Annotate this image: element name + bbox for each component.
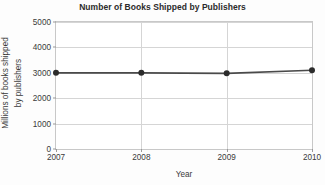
y-axis-tick-label: 0 xyxy=(46,145,51,154)
x-axis-tick-mark xyxy=(56,149,57,152)
x-axis-tick-mark xyxy=(141,149,142,152)
x-axis-tick-label: 2010 xyxy=(303,153,321,162)
plot-area: 010002000300040005000 2007200820092010 xyxy=(55,21,313,150)
chart-container: Number of Books Shipped by Publishers Mi… xyxy=(0,0,325,185)
x-axis-tick-label: 2007 xyxy=(47,153,65,162)
x-axis-tick-label: 2009 xyxy=(218,153,236,162)
y-axis-tick-label: 5000 xyxy=(33,18,51,27)
y-axis-label-line-2: by publishers xyxy=(14,59,23,107)
series-line xyxy=(56,70,312,73)
x-axis-tick-mark xyxy=(227,149,228,152)
x-axis-label: Year xyxy=(55,170,313,179)
data-point-marker xyxy=(138,70,144,76)
y-axis-tick-label: 4000 xyxy=(33,43,51,52)
data-point-marker xyxy=(53,70,59,76)
y-axis-label: Millions of books shipped by publishers xyxy=(0,18,25,148)
x-axis-tick-mark xyxy=(312,149,313,152)
y-axis-tick-label: 3000 xyxy=(33,68,51,77)
y-axis-tick-label: 1000 xyxy=(33,119,51,128)
y-axis-tick-label: 2000 xyxy=(33,94,51,103)
x-axis-tick-label: 2008 xyxy=(132,153,150,162)
y-axis-label-line-1: Millions of books shipped xyxy=(1,37,10,128)
data-point-marker xyxy=(224,70,230,76)
data-series xyxy=(56,22,312,149)
data-point-marker xyxy=(309,67,315,73)
chart-title: Number of Books Shipped by Publishers xyxy=(0,2,325,12)
